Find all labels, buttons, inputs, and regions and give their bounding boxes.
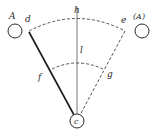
label-a: A: [8, 11, 16, 21]
label-g: g: [107, 69, 113, 79]
left-bob-circle: [8, 24, 22, 38]
label-e: e: [121, 15, 126, 25]
label-d: d: [25, 14, 31, 24]
inner-dashed-arc-l: [52, 63, 103, 69]
label-h: h: [74, 5, 80, 15]
solid-arm-f: [29, 32, 74, 115]
label-paren-a: (A): [133, 12, 145, 21]
pendulum-diagram: A (A) d e h l f g c: [0, 0, 156, 137]
dashed-arm-g: [80, 31, 125, 115]
right-bob-circle: [135, 24, 149, 38]
label-c: c: [74, 117, 79, 126]
label-f: f: [37, 72, 43, 82]
label-l: l: [80, 45, 83, 55]
